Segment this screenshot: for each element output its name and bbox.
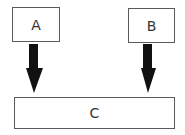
node-c-label: C bbox=[90, 105, 100, 121]
arrow-b-to-c-icon bbox=[141, 44, 156, 93]
arrow-a-to-c-icon bbox=[26, 44, 43, 93]
node-c: C bbox=[14, 97, 175, 129]
